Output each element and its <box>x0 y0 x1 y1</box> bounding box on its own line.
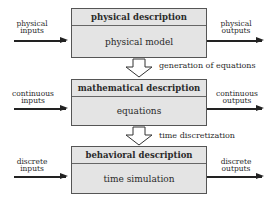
block-1-output-label: physical outputs <box>212 20 260 34</box>
block-content: equations <box>72 97 206 126</box>
block-3-input-label: discrete inputs <box>4 158 60 172</box>
block-content: physical model <box>72 26 206 58</box>
block-title: mathematical description <box>72 80 206 97</box>
block-2-output-label: continuous outputs <box>208 90 266 104</box>
block-physical-description: physical description physical model <box>71 8 207 58</box>
input-arrow-2 <box>14 108 66 110</box>
block-title: behavioral description <box>72 147 206 164</box>
input-arrow-3 <box>14 176 66 178</box>
input-arrow-1 <box>14 40 66 42</box>
block-mathematical-description: mathematical description equations <box>71 79 207 126</box>
transition-label-1: generation of equations <box>159 61 256 70</box>
output-arrow-3 <box>207 176 262 178</box>
input-line: inputs <box>4 165 60 172</box>
block-content: time simulation <box>72 164 206 194</box>
output-line: outputs <box>208 97 266 104</box>
input-line: inputs <box>4 27 60 34</box>
transition-label-2: time discretization <box>159 131 235 140</box>
output-arrow-2 <box>207 108 262 110</box>
output-line: outputs <box>212 165 260 172</box>
input-line: inputs <box>2 97 64 104</box>
output-line: outputs <box>212 27 260 34</box>
block-3-output-label: discrete outputs <box>212 158 260 172</box>
down-arrow-icon <box>124 126 154 146</box>
block-1-input-label: physical inputs <box>4 20 60 34</box>
block-2-input-label: continuous inputs <box>2 90 64 104</box>
block-behavioral-description: behavioral description time simulation <box>71 146 207 194</box>
down-arrow-icon <box>124 58 154 78</box>
block-title: physical description <box>72 9 206 26</box>
output-arrow-1 <box>207 40 262 42</box>
